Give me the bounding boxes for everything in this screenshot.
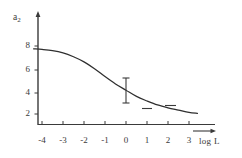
y-axis-title-subscript: 2 <box>17 16 21 24</box>
y-axis-arrow-icon <box>36 11 41 17</box>
x-tick-label-neg1: -1 <box>97 136 113 145</box>
x-tick-label-neg3: -3 <box>55 136 71 145</box>
x-tick-label-3: 3 <box>181 136 197 145</box>
x-axis-arrow-icon <box>211 129 217 133</box>
y-tick-label-8: 8 <box>16 41 30 50</box>
x-tick-label-neg2: -2 <box>76 136 92 145</box>
x-tick-label-2: 2 <box>160 136 176 145</box>
sigmoid-curve <box>34 49 198 114</box>
y-tick-label-2: 2 <box>16 109 30 118</box>
x-tick-label-neg4: -4 <box>34 136 50 145</box>
y-axis-title: a2 <box>13 13 21 24</box>
x-tick-label-1: 1 <box>139 136 155 145</box>
x-tick-label-0: 0 <box>118 136 134 145</box>
figure-root: a2 8 6 4 2 -4 -3 -2 -1 0 1 2 3 log L <box>0 0 242 158</box>
error-bar-at-zero <box>123 78 130 103</box>
plot-canvas <box>0 0 242 158</box>
y-tick-label-4: 4 <box>16 88 30 97</box>
x-axis-title: log L <box>199 136 220 146</box>
y-tick-label-6: 6 <box>16 65 30 74</box>
